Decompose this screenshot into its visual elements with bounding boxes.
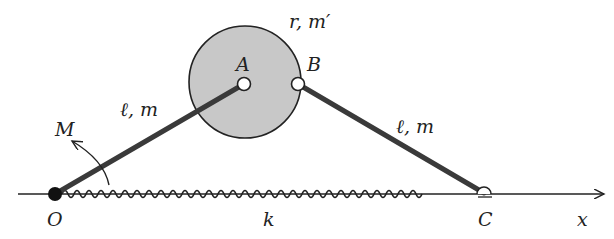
spring-k <box>62 191 422 198</box>
label-C: C <box>478 210 493 229</box>
hinge-C <box>477 187 491 194</box>
label-rod-OA: ℓ, m <box>120 100 158 119</box>
pivot-O <box>48 187 62 201</box>
pin-A <box>238 78 251 91</box>
label-x: x <box>577 210 588 229</box>
label-M: M <box>55 120 74 139</box>
label-B: B <box>307 55 321 74</box>
mechanism-diagram <box>0 0 614 239</box>
rod-BC <box>298 84 484 193</box>
label-rod-BC: ℓ, m <box>396 117 434 136</box>
label-r-m-prime: r, m′ <box>289 12 330 31</box>
label-k: k <box>263 210 275 229</box>
label-O: O <box>47 210 63 229</box>
label-A: A <box>236 55 250 74</box>
pin-B <box>292 78 305 91</box>
